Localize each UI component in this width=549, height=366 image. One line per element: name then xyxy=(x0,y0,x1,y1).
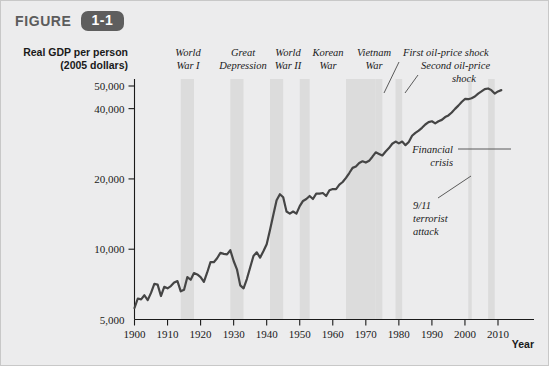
y-tick-label: 40,000 xyxy=(94,103,125,115)
y-tick-group xyxy=(129,86,135,249)
y-tick-label: 10,000 xyxy=(94,243,125,255)
annotation-ww1-line2: War I xyxy=(176,60,200,71)
recession-band xyxy=(230,79,243,320)
figure-card: FIGURE 1-1 5,00010,00020,00040,00050,000… xyxy=(0,0,549,366)
recession-band xyxy=(376,79,383,320)
annotation-great-depression-line1: Great xyxy=(231,47,256,58)
y-tick-label: 50,000 xyxy=(94,80,125,92)
annotation-ww1-line1: World xyxy=(175,47,201,58)
y-axis-title-line1: Real GDP per person xyxy=(23,46,128,58)
annotation-911-line2: terrorist xyxy=(413,213,449,224)
x-tick-group xyxy=(135,320,499,326)
x-tick-label: 1950 xyxy=(289,328,312,340)
x-tick-label: 2010 xyxy=(487,328,510,340)
x-tick-label: 1970 xyxy=(355,328,378,340)
x-tick-label: 1940 xyxy=(256,328,279,340)
recession-band xyxy=(468,79,472,320)
recession-band xyxy=(346,79,376,320)
annotation-ww2-line2: War II xyxy=(275,60,302,71)
x-tick-labels: 1900191019201930194019501960197019801990… xyxy=(124,328,510,340)
recession-band xyxy=(488,79,495,320)
x-tick-label: 1960 xyxy=(322,328,345,340)
x-tick-label: 1980 xyxy=(388,328,411,340)
gdp-line-chart: 5,00010,00020,00040,00050,000 1900191019… xyxy=(1,1,549,366)
y-tick-label: 20,000 xyxy=(94,173,125,185)
x-tick-label: 1910 xyxy=(157,328,180,340)
annotation-financial-crisis-line2: crisis xyxy=(430,157,453,168)
leader-line-second-oil-shock xyxy=(405,75,418,93)
annotation-financial-crisis-line1: Financial xyxy=(411,144,453,155)
leader-line-911 xyxy=(438,176,471,198)
annotation-korean-war-line1: Korean xyxy=(311,47,343,58)
annotation-911-line3: attack xyxy=(413,226,439,237)
annotation-second-oil-shock-line1: Second oil-price xyxy=(421,60,490,71)
y-axis-title-line2: (2005 dollars) xyxy=(60,59,128,71)
annotation-korean-war-line2: War xyxy=(319,60,337,71)
x-tick-label: 1990 xyxy=(421,328,444,340)
annotation-911-line1: 9/11 xyxy=(413,200,431,211)
annotation-second-oil-shock-line2: shock xyxy=(452,73,476,84)
annotation-first-oil-shock: First oil-price shock xyxy=(402,47,489,58)
annotation-great-depression-line2: Depression xyxy=(218,60,266,71)
x-tick-label: 1930 xyxy=(223,328,246,340)
x-tick-label: 2000 xyxy=(454,328,477,340)
recession-band xyxy=(181,79,194,320)
y-tick-label: 5,000 xyxy=(100,314,125,326)
y-tick-labels: 5,00010,00020,00040,00050,000 xyxy=(94,80,125,326)
x-tick-label: 1920 xyxy=(190,328,213,340)
x-tick-label: 1900 xyxy=(124,328,147,340)
chart-axes xyxy=(135,79,535,320)
annotation-vietnam-war-line2: War xyxy=(365,60,383,71)
recession-band xyxy=(396,79,403,320)
annotation-ww2-line1: World xyxy=(275,47,301,58)
annotation-vietnam-war-line1: Vietnam xyxy=(357,47,392,58)
x-axis-title: Year xyxy=(512,338,534,350)
